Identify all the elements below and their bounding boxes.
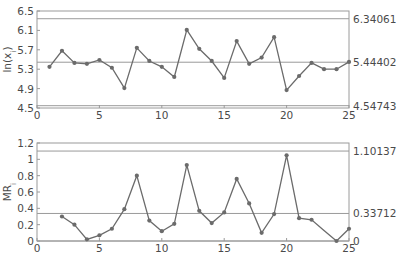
moving-range-y-tick-label: 1 xyxy=(27,153,34,165)
moving-range-data-point xyxy=(222,210,226,214)
moving-range-data-point xyxy=(110,227,114,231)
moving-range-data-point xyxy=(347,227,351,231)
moving-range-data-point xyxy=(285,153,289,157)
moving-range-data-point xyxy=(334,239,338,243)
moving-range-data-point xyxy=(235,177,239,181)
moving-range-chart: 1.101370.337120051015202500.20.40.60.811… xyxy=(0,0,398,261)
moving-range-y-tick-label: 0.8 xyxy=(17,170,34,182)
moving-range-data-point xyxy=(210,221,214,225)
moving-range-data-line xyxy=(62,155,349,241)
moving-range-x-tick-label: 15 xyxy=(218,242,231,254)
control-charts-figure: 6.340615.444024.5474305101520254.54.95.3… xyxy=(0,0,398,261)
moving-range-y-tick-label: 1.2 xyxy=(17,137,34,149)
moving-range-x-tick-label: 0 xyxy=(34,242,41,254)
moving-range-data-point xyxy=(122,207,126,211)
moving-range-data-point xyxy=(160,229,164,233)
moving-range-data-point xyxy=(247,201,251,205)
moving-range-data-point xyxy=(185,163,189,167)
moving-range-y-tick-label: 0.6 xyxy=(17,186,34,198)
moving-range-data-point xyxy=(272,212,276,216)
moving-range-upper-control-limit-label: 1.10137 xyxy=(353,145,396,157)
moving-range-x-tick-label: 5 xyxy=(96,242,103,254)
moving-range-data-point xyxy=(60,214,64,218)
moving-range-y-axis-label: MRi xyxy=(1,183,18,201)
moving-range-data-point xyxy=(197,209,201,213)
moving-range-data-point xyxy=(72,223,76,227)
moving-range-data-point xyxy=(309,218,313,222)
moving-range-data-point xyxy=(85,237,89,241)
moving-range-x-tick-label: 20 xyxy=(280,242,293,254)
moving-range-plot-frame xyxy=(37,143,349,241)
moving-range-y-tick-label: 0 xyxy=(27,235,34,247)
moving-range-data-point xyxy=(147,218,151,222)
moving-range-center-line-label: 0.33712 xyxy=(353,207,396,219)
moving-range-y-tick-label: 0.2 xyxy=(17,219,34,231)
moving-range-data-point xyxy=(135,174,139,178)
moving-range-y-tick-label: 0.4 xyxy=(17,202,34,214)
moving-range-x-tick-label: 25 xyxy=(342,242,355,254)
moving-range-data-point xyxy=(97,233,101,237)
moving-range-data-point xyxy=(172,222,176,226)
moving-range-data-point xyxy=(297,216,301,220)
moving-range-data-point xyxy=(260,231,264,235)
moving-range-x-tick-label: 10 xyxy=(155,242,168,254)
